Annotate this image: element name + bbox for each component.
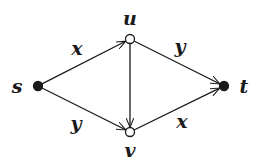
edge-label-s-u: x xyxy=(70,37,83,59)
edge-label-s-v: y xyxy=(69,112,83,134)
node-label-t: t xyxy=(240,75,249,97)
edge-label-v-t: x xyxy=(175,110,188,132)
node-label-u: u xyxy=(123,7,137,29)
node-s xyxy=(34,82,43,91)
nodes-group xyxy=(34,35,229,137)
graph-diagram: xyyxsuvt xyxy=(0,0,257,167)
edge-s-u xyxy=(42,42,125,84)
node-label-s: s xyxy=(11,75,23,97)
node-v xyxy=(126,128,135,137)
edges-group xyxy=(42,41,219,130)
node-t xyxy=(220,82,229,91)
node-label-v: v xyxy=(124,139,136,161)
edge-s-v xyxy=(42,88,125,130)
edge-label-u-t: y xyxy=(173,35,187,57)
node-u xyxy=(126,35,135,44)
